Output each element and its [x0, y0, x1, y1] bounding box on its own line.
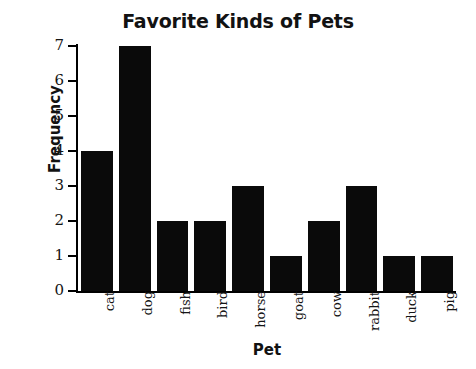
bar: [346, 186, 378, 291]
bar: [383, 256, 415, 291]
x-axis-category-labels: catdogfishbirdhorsegoatcowrabbitduckpig: [78, 293, 456, 339]
y-tick-label: 7: [40, 36, 64, 54]
bar: [308, 221, 340, 291]
y-tick-mark: [68, 185, 77, 187]
y-tick-mark: [68, 80, 77, 82]
y-tick-label: 3: [40, 176, 64, 194]
y-tick-label: 0: [40, 281, 64, 299]
y-tick-mark: [68, 150, 77, 152]
y-tick-mark: [68, 45, 77, 47]
y-tick-mark: [68, 115, 77, 117]
y-tick-mark: [68, 220, 77, 222]
bar: [119, 46, 151, 291]
y-tick-label: 2: [40, 211, 64, 229]
x-tick-label: cat: [102, 291, 117, 337]
bar: [232, 186, 264, 291]
x-tick-label: pig: [442, 291, 457, 337]
y-tick-mark: [68, 255, 77, 257]
bar-chart-figure: Favorite Kinds of Pets Frequency 0123456…: [0, 0, 476, 369]
x-tick-label: dog: [140, 291, 155, 337]
x-axis-title: Pet: [78, 341, 456, 359]
bar: [421, 256, 453, 291]
y-tick-label: 5: [40, 106, 64, 124]
bar: [194, 221, 226, 291]
bar: [157, 221, 189, 291]
chart-title: Favorite Kinds of Pets: [0, 10, 476, 32]
x-tick-label: rabbit: [367, 291, 382, 337]
y-tick-label: 1: [40, 246, 64, 264]
x-tick-label: goat: [291, 291, 306, 337]
x-tick-label: duck: [404, 291, 419, 337]
x-tick-label: fish: [178, 291, 193, 337]
x-tick-label: cow: [329, 291, 344, 337]
y-tick-mark: [68, 290, 77, 292]
y-tick-label: 6: [40, 71, 64, 89]
y-tick-label: 4: [40, 141, 64, 159]
bar: [270, 256, 302, 291]
x-tick-label: horse: [253, 291, 268, 337]
bar: [81, 151, 113, 291]
bars-layer: [78, 46, 456, 291]
y-axis-title: Frequency: [46, 84, 64, 174]
x-tick-label: bird: [215, 291, 230, 337]
